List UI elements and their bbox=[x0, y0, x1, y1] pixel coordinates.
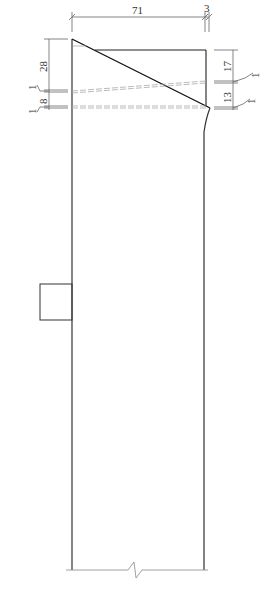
break-line bbox=[66, 562, 208, 578]
left-dimension: 28 1 8 1 bbox=[26, 39, 68, 114]
right-dimension: 17 1 13 1 bbox=[214, 50, 261, 110]
cross-section-drawing: 71 3 28 1 8 1 17 1 13 1 bbox=[0, 0, 275, 614]
dim-13: 13 bbox=[221, 92, 233, 104]
dim-28: 28 bbox=[37, 61, 49, 73]
side-block bbox=[40, 284, 72, 320]
dim-left-1-bottom: 1 bbox=[26, 109, 38, 115]
top-dimension: 71 3 bbox=[69, 2, 212, 32]
dim-left-1-top: 1 bbox=[26, 85, 38, 91]
dim-8: 8 bbox=[37, 98, 49, 104]
dashed-lines bbox=[72, 81, 206, 108]
dim-right-1-bottom: 1 bbox=[245, 99, 257, 105]
dim-right-1-top: 1 bbox=[249, 73, 261, 79]
dim-17: 17 bbox=[221, 61, 233, 73]
dim-71: 71 bbox=[132, 4, 143, 16]
section-outline bbox=[72, 39, 210, 570]
dim-3: 3 bbox=[204, 2, 210, 14]
